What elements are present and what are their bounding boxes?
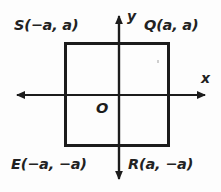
y-axis-label: y xyxy=(127,9,136,23)
vertex-label-s: S(−a, a) xyxy=(14,18,78,33)
square-shape xyxy=(64,42,170,147)
vertex-label-e: E(−a, −a) xyxy=(11,157,87,172)
origin-label: O xyxy=(96,101,108,116)
vertex-label-q: Q(a, a) xyxy=(144,18,198,33)
x-axis-label: x xyxy=(201,71,210,85)
vertex-label-r: R(a, −a) xyxy=(128,157,193,172)
geometry-figure: S(−a, a) Q(a, a) E(−a, −a) R(a, −a) y x … xyxy=(0,0,221,192)
scan-artifact xyxy=(157,60,159,63)
